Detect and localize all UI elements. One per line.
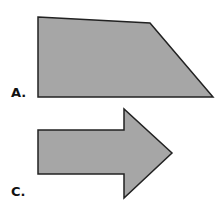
- label-a: A.: [11, 86, 26, 99]
- label-c: C.: [11, 185, 25, 198]
- shapes-figure: A. C.: [0, 0, 224, 206]
- trapezoid-shape: [38, 17, 213, 97]
- shapes-svg: [0, 0, 224, 206]
- right-arrow-shape: [38, 109, 172, 198]
